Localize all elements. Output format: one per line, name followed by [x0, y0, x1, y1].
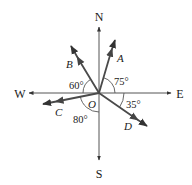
label-vector-a: A	[116, 52, 124, 64]
angle-label-c: 80°	[73, 114, 88, 125]
label-vector-c: C	[55, 106, 63, 118]
angle-label-b: 60°	[69, 80, 84, 91]
label-east: E	[176, 87, 183, 101]
label-origin: O	[88, 98, 96, 110]
label-vector-d: D	[123, 120, 132, 132]
arc-d	[120, 93, 125, 107]
label-north: N	[95, 10, 104, 24]
angle-label-a: 75°	[114, 76, 129, 87]
compass-diagram: N S W E A B C D O 75° 60° 80° 35°	[0, 0, 192, 185]
label-south: S	[96, 167, 103, 181]
arc-b	[83, 79, 91, 93]
label-vector-b: B	[66, 58, 73, 70]
label-west: W	[14, 87, 26, 101]
angle-label-d: 35°	[126, 99, 141, 110]
